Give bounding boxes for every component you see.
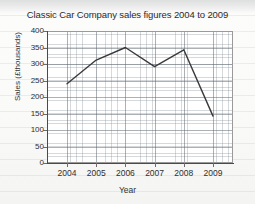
y-axis-line <box>47 31 48 164</box>
x-axis-tick-labels: 200420052006200720082009 <box>47 168 233 180</box>
y-axis-tick-label: 150 <box>18 109 44 118</box>
x-axis-tick <box>67 163 68 167</box>
x-axis-tick <box>155 163 156 167</box>
line-chart: Classic Car Company sales figures 2004 t… <box>0 0 255 204</box>
y-axis-tick-label: 300 <box>18 59 44 68</box>
chart-title: Classic Car Company sales figures 2004 t… <box>0 9 255 21</box>
x-axis-tick <box>96 163 97 167</box>
y-axis-tick-label: 50 <box>18 142 44 151</box>
y-axis-tick-labels: 050100150200250300350400 <box>16 31 44 163</box>
plot-area <box>47 31 233 163</box>
y-axis-tick-label: 400 <box>18 26 44 35</box>
y-axis-tick-label: 100 <box>18 125 44 134</box>
x-axis-tick-label: 2009 <box>193 168 233 178</box>
x-axis-tick <box>184 163 185 167</box>
plot-border <box>47 31 233 163</box>
y-axis-tick-label: 200 <box>18 92 44 101</box>
y-axis-tick-label: 350 <box>18 43 44 52</box>
y-axis-tick-label: 0 <box>18 158 44 167</box>
y-axis-tick-label: 250 <box>18 76 44 85</box>
x-axis-tick <box>213 163 214 167</box>
x-axis-title: Year <box>0 185 255 195</box>
x-axis-tick <box>125 163 126 167</box>
